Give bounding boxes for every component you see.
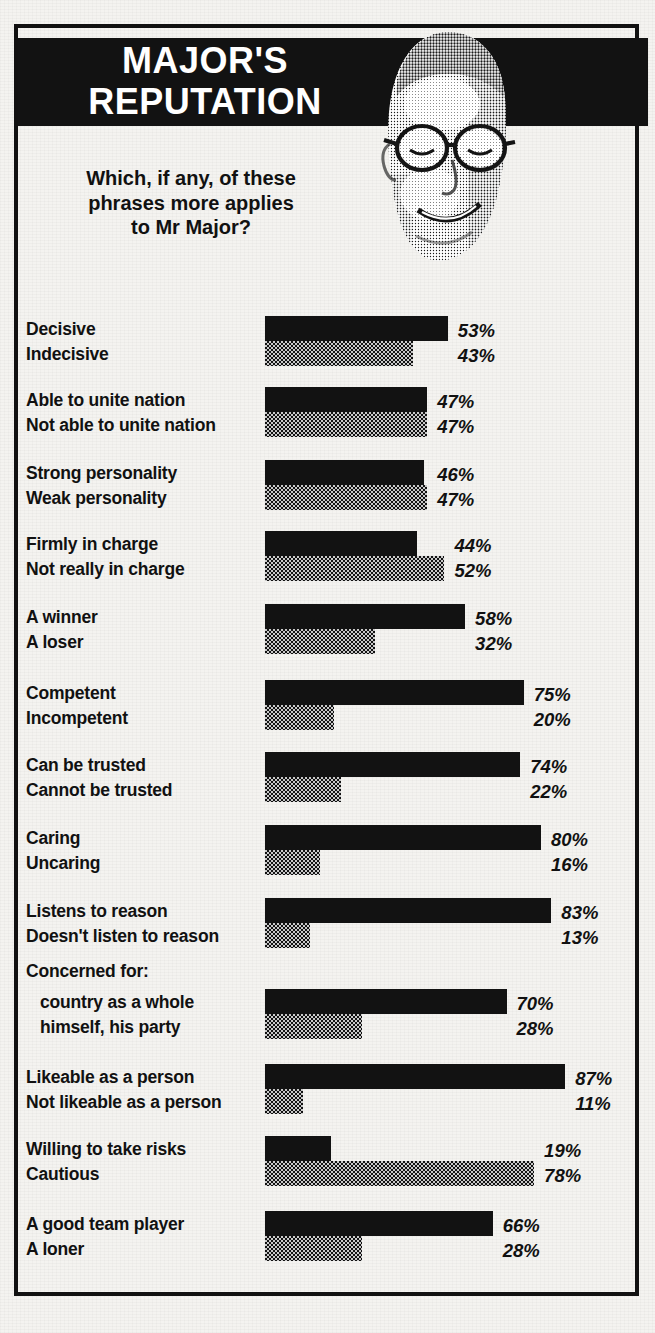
negative-label: A loser: [26, 634, 83, 652]
negative-value: 78%: [544, 1165, 581, 1187]
negative-bar: [265, 556, 444, 581]
page-title: MAJOR'S REPUTATION: [40, 40, 370, 122]
positive-label: Firmly in charge: [26, 536, 158, 554]
positive-bar: [265, 1064, 565, 1089]
positive-bar: [265, 752, 520, 777]
positive-label: Willing to take risks: [26, 1141, 186, 1159]
positive-label: Able to unite nation: [26, 392, 185, 410]
positive-bar: [265, 680, 524, 705]
positive-value: 19%: [544, 1140, 581, 1162]
negative-label: Not able to unite nation: [26, 417, 216, 435]
positive-value: 44%: [454, 535, 491, 557]
positive-value: 47%: [437, 391, 474, 413]
positive-value: 87%: [575, 1068, 612, 1090]
negative-value: 11%: [575, 1093, 611, 1115]
positive-bar: [265, 825, 541, 850]
negative-value: 32%: [475, 633, 512, 655]
negative-value: 20%: [534, 709, 571, 731]
negative-label: Cautious: [26, 1166, 99, 1184]
positive-label: Listens to reason: [26, 903, 168, 921]
positive-value: 75%: [534, 684, 571, 706]
negative-value: 16%: [551, 854, 588, 876]
negative-value: 13%: [561, 927, 598, 949]
paired-bar-chart: DecisiveIndecisive53%43%Able to unite na…: [18, 306, 638, 1296]
negative-label: Not likeable as a person: [26, 1094, 222, 1112]
group-heading: Concerned for:: [26, 963, 149, 981]
positive-label: Likeable as a person: [26, 1069, 194, 1087]
negative-bar: [265, 1236, 362, 1261]
negative-bar: [265, 705, 334, 730]
negative-value: 47%: [437, 489, 474, 511]
negative-label: Uncaring: [26, 855, 100, 873]
negative-bar: [265, 341, 413, 366]
positive-label: Competent: [26, 685, 116, 703]
positive-bar: [265, 460, 424, 485]
negative-bar: [265, 485, 427, 510]
positive-label: country as a whole: [40, 994, 194, 1012]
negative-bar: [265, 923, 310, 948]
negative-bar: [265, 1161, 534, 1186]
positive-value: 46%: [437, 464, 474, 486]
positive-bar: [265, 316, 448, 341]
positive-bar: [265, 531, 417, 556]
positive-label: Decisive: [26, 321, 95, 339]
positive-value: 66%: [503, 1215, 540, 1237]
negative-value: 28%: [503, 1240, 540, 1262]
negative-label: A loner: [26, 1241, 84, 1259]
negative-value: 28%: [517, 1018, 554, 1040]
portrait-photo-icon: [372, 24, 524, 272]
positive-label: Caring: [26, 830, 80, 848]
negative-bar: [265, 412, 427, 437]
positive-label: A good team player: [26, 1216, 184, 1234]
positive-bar: [265, 989, 507, 1014]
positive-bar: [265, 1136, 331, 1161]
positive-bar: [265, 1211, 493, 1236]
positive-value: 53%: [458, 320, 495, 342]
negative-label: Indecisive: [26, 346, 109, 364]
negative-bar: [265, 777, 341, 802]
positive-bar: [265, 604, 465, 629]
negative-value: 47%: [437, 416, 474, 438]
positive-bar: [265, 898, 551, 923]
positive-label: A winner: [26, 609, 98, 627]
negative-label: Doesn't listen to reason: [26, 928, 219, 946]
negative-label: Incompetent: [26, 710, 128, 728]
negative-label: himself, his party: [40, 1019, 180, 1037]
survey-question: Which, if any, of these phrases more app…: [26, 166, 356, 240]
positive-value: 74%: [530, 756, 567, 778]
positive-label: Strong personality: [26, 465, 177, 483]
negative-bar: [265, 850, 320, 875]
negative-label: Cannot be trusted: [26, 782, 172, 800]
positive-bar: [265, 387, 427, 412]
negative-bar: [265, 629, 375, 654]
negative-label: Weak personality: [26, 490, 166, 508]
negative-label: Not really in charge: [26, 561, 184, 579]
positive-value: 70%: [517, 993, 554, 1015]
positive-label: Can be trusted: [26, 757, 146, 775]
negative-value: 52%: [454, 560, 491, 582]
negative-value: 22%: [530, 781, 567, 803]
negative-bar: [265, 1014, 362, 1039]
positive-value: 80%: [551, 829, 588, 851]
negative-bar: [265, 1089, 303, 1114]
positive-value: 58%: [475, 608, 512, 630]
negative-value: 43%: [458, 345, 495, 367]
positive-value: 83%: [561, 902, 598, 924]
